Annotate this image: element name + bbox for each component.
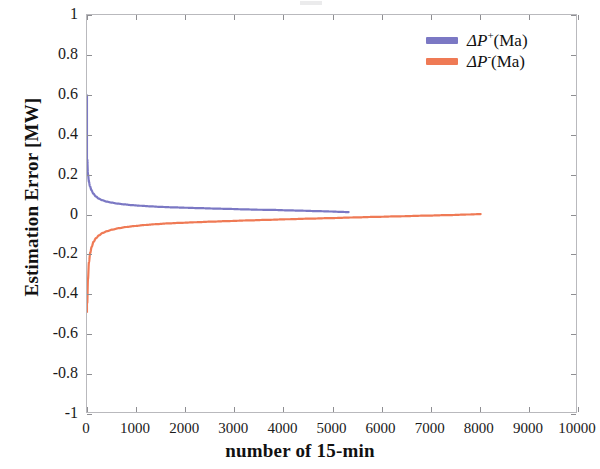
y-tick-0 <box>87 414 92 415</box>
x-tick-top-5 <box>333 15 334 20</box>
y-tick-label-0: -1 <box>10 405 78 421</box>
y-tick-4 <box>87 254 92 255</box>
y-tick-right-0 <box>571 414 576 415</box>
x-tick-3 <box>234 407 235 412</box>
y-tick-9 <box>87 55 92 56</box>
y-tick-label-6: 0.2 <box>10 166 78 182</box>
x-tick-9 <box>529 407 530 412</box>
legend-label-0-base: ΔP <box>467 31 487 50</box>
legend-label-1-base: ΔP <box>467 52 487 71</box>
y-tick-label-4: -0.2 <box>10 245 78 261</box>
legend-item-1: ΔP-(Ma) <box>426 51 528 72</box>
y-tick-right-1 <box>571 374 576 375</box>
legend-item-0: ΔP+(Ma) <box>426 30 528 51</box>
y-tick-8 <box>87 95 92 96</box>
y-tick-right-4 <box>571 254 576 255</box>
x-tick-top-8 <box>480 15 481 20</box>
x-tick-top-6 <box>382 15 383 20</box>
x-tick-1 <box>136 407 137 412</box>
y-tick-label-7: 0.4 <box>10 126 78 142</box>
legend-label-0-suffix: (Ma) <box>494 31 528 50</box>
series-line-0 <box>87 160 348 212</box>
series-line-1 <box>87 214 480 303</box>
y-tick-label-9: 0.8 <box>10 46 78 62</box>
figure-canvas: Estimation Error [MW] number of 15-min -… <box>0 0 600 469</box>
y-tick-right-3 <box>571 294 576 295</box>
y-tick-10 <box>87 15 92 16</box>
y-tick-label-2: -0.6 <box>10 325 78 341</box>
x-tick-label-10: 10000 <box>537 421 600 436</box>
scan-artifact <box>300 1 322 5</box>
x-axis-title: number of 15-min <box>0 440 600 462</box>
x-tick-top-10 <box>578 15 579 20</box>
y-tick-right-7 <box>571 135 576 136</box>
legend-swatch-0 <box>426 37 458 44</box>
x-tick-top-1 <box>136 15 137 20</box>
y-tick-right-6 <box>571 175 576 176</box>
y-tick-2 <box>87 334 92 335</box>
y-tick-right-2 <box>571 334 576 335</box>
x-tick-top-3 <box>234 15 235 20</box>
series-layer <box>87 94 480 312</box>
y-tick-right-8 <box>571 95 576 96</box>
x-tick-top-4 <box>283 15 284 20</box>
x-tick-0 <box>87 407 88 412</box>
x-tick-top-7 <box>431 15 432 20</box>
legend-label-1: ΔP-(Ma) <box>467 53 525 70</box>
x-tick-4 <box>283 407 284 412</box>
y-tick-label-3: -0.4 <box>10 285 78 301</box>
x-tick-5 <box>333 407 334 412</box>
x-tick-6 <box>382 407 383 412</box>
legend-label-1-suffix: (Ma) <box>491 52 525 71</box>
y-tick-6 <box>87 175 92 176</box>
y-tick-right-5 <box>571 215 576 216</box>
x-tick-2 <box>185 407 186 412</box>
x-tick-10 <box>578 407 579 412</box>
x-tick-8 <box>480 407 481 412</box>
legend-label-0: ΔP+(Ma) <box>467 32 528 49</box>
y-tick-label-8: 0.6 <box>10 86 78 102</box>
y-tick-right-9 <box>571 55 576 56</box>
y-tick-label-5: 0 <box>10 206 78 222</box>
y-tick-5 <box>87 215 92 216</box>
x-tick-top-9 <box>529 15 530 20</box>
y-tick-right-10 <box>571 15 576 16</box>
x-tick-7 <box>431 407 432 412</box>
y-tick-3 <box>87 294 92 295</box>
y-tick-label-1: -0.8 <box>10 365 78 381</box>
y-tick-7 <box>87 135 92 136</box>
y-tick-label-10: 1 <box>10 6 78 22</box>
chart-legend: ΔP+(Ma) ΔP-(Ma) <box>420 26 534 76</box>
x-tick-top-2 <box>185 15 186 20</box>
y-tick-1 <box>87 374 92 375</box>
legend-swatch-1 <box>426 58 458 65</box>
